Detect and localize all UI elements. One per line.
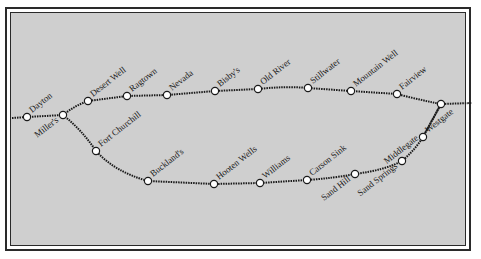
station-marker [419, 133, 426, 140]
station-label: Nevada [167, 68, 195, 93]
station-marker [163, 91, 170, 98]
station-marker [211, 87, 218, 94]
station-marker [347, 87, 354, 94]
labels-layer: DaytonMiller'sDesert WellRagtownNevadaBi… [27, 47, 455, 202]
station-marker [398, 157, 405, 164]
station-marker [437, 100, 444, 107]
station-label: Carson Sink [307, 142, 348, 177]
station-label: Miller's [32, 114, 60, 139]
station-label: Hooten Wells [214, 143, 259, 181]
station-label: Stillwater [308, 56, 342, 85]
station-marker [351, 170, 358, 177]
station-marker [304, 84, 311, 91]
station-label: Mountain Well [351, 47, 400, 88]
station-label: Westgate [423, 107, 455, 135]
station-label: Williams [260, 152, 292, 180]
station-marker [23, 113, 30, 120]
station-marker [393, 90, 400, 97]
station-label: Old River [258, 57, 292, 87]
station-marker [256, 179, 263, 186]
station-marker [210, 180, 217, 187]
station-label: Desert Well [88, 64, 128, 98]
station-label: Fairview [397, 64, 429, 92]
route-line-north [63, 87, 472, 115]
station-marker [59, 111, 66, 118]
station-marker [84, 97, 91, 104]
station-marker [123, 92, 130, 99]
station-marker [92, 147, 99, 154]
station-label: Bisby's [215, 64, 242, 88]
station-label: Sand Springs [355, 160, 399, 198]
station-label: Fort Churchill [96, 109, 143, 149]
station-marker [254, 85, 261, 92]
station-label: Ragtown [127, 65, 159, 93]
station-marker [144, 177, 151, 184]
station-marker [303, 176, 310, 183]
station-label: Dayton [27, 90, 54, 114]
route-map: DaytonMiller'sDesert WellRagtownNevadaBi… [0, 0, 481, 259]
station-label: Buckland's [148, 146, 186, 179]
